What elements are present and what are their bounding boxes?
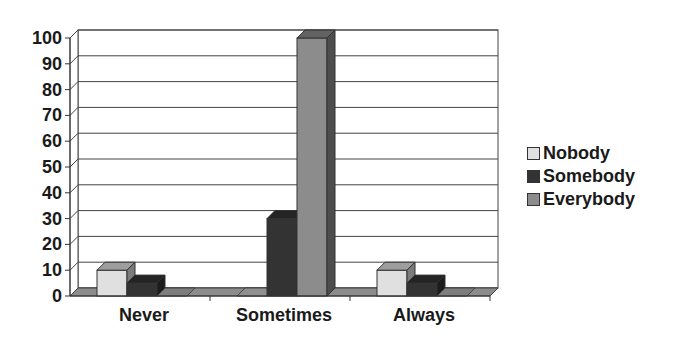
x-axis: NeverSometimesAlways xyxy=(70,296,490,325)
legend-swatch-nobody xyxy=(527,147,540,160)
y-axis: 0102030405060708090100 xyxy=(32,28,70,306)
y-tick-label: 0 xyxy=(52,286,62,306)
legend-item-somebody: Somebody xyxy=(527,165,635,187)
bar-always-somebody xyxy=(407,275,445,296)
y-tick-label: 70 xyxy=(42,105,62,125)
legend-label: Nobody xyxy=(543,143,610,164)
bar-sometimes-everybody xyxy=(297,30,335,296)
y-tick-label: 10 xyxy=(42,260,62,280)
y-tick-label: 20 xyxy=(42,234,62,254)
legend-item-everybody: Everybody xyxy=(527,188,635,210)
x-tick-label: Sometimes xyxy=(236,305,332,325)
y-tick-label: 60 xyxy=(42,131,62,151)
y-tick-label: 80 xyxy=(42,80,62,100)
legend: Nobody Somebody Everybody xyxy=(527,142,635,211)
y-tick-label: 30 xyxy=(42,209,62,229)
y-tick-label: 50 xyxy=(42,157,62,177)
y-tick-label: 90 xyxy=(42,54,62,74)
bar-never-somebody xyxy=(127,275,165,296)
legend-swatch-everybody xyxy=(527,193,540,206)
y-tick-label: 100 xyxy=(32,28,62,48)
legend-swatch-somebody xyxy=(527,170,540,183)
x-tick-label: Never xyxy=(119,305,169,325)
legend-label: Everybody xyxy=(543,189,635,210)
legend-label: Somebody xyxy=(543,166,635,187)
legend-item-nobody: Nobody xyxy=(527,142,635,164)
x-tick-label: Always xyxy=(393,305,455,325)
y-tick-label: 40 xyxy=(42,183,62,203)
